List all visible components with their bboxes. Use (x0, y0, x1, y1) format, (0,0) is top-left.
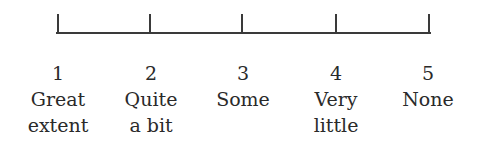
tick-mark-5 (428, 14, 430, 34)
scale-label-line2: a bit (106, 112, 196, 138)
tick-mark-1 (57, 14, 59, 34)
tick-mark-2 (149, 14, 151, 34)
scale-value: 5 (383, 60, 473, 86)
scale-value: 2 (106, 60, 196, 86)
tick-mark-4 (335, 14, 337, 34)
scale-value: 3 (198, 60, 288, 86)
scale-label-line1: None (383, 86, 473, 112)
scale-point-4: 4 Very little (291, 60, 381, 138)
scale-label-line1: Some (198, 86, 288, 112)
scale-point-3: 3 Some (198, 60, 288, 112)
scale-value: 1 (13, 60, 103, 86)
scale-point-5: 5 None (383, 60, 473, 112)
scale-label-line2: extent (13, 112, 103, 138)
tick-mark-3 (241, 14, 243, 34)
scale-label-line1: Quite (106, 86, 196, 112)
scale-label-line2: little (291, 112, 381, 138)
scale-axis-line (56, 32, 431, 34)
scale-label-line1: Great (13, 86, 103, 112)
scale-value: 4 (291, 60, 381, 86)
scale-point-2: 2 Quite a bit (106, 60, 196, 138)
scale-label-line1: Very (291, 86, 381, 112)
scale-point-1: 1 Great extent (13, 60, 103, 138)
